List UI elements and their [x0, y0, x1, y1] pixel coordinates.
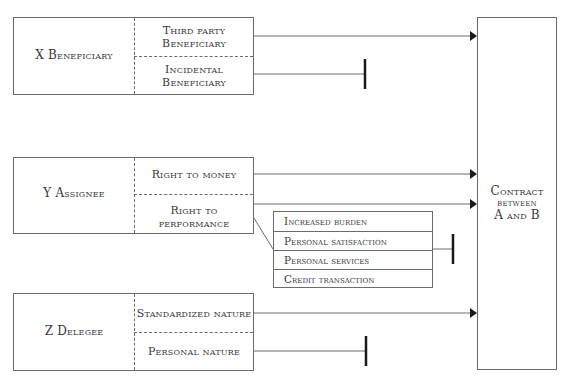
group-title: X Beneficiary	[14, 49, 134, 62]
arrowhead-icon	[470, 169, 477, 179]
group-z-delegee: Z Delegee Standardized nature Personal n…	[13, 293, 254, 371]
item-label-line1: Third party	[135, 24, 253, 37]
exception-link-line	[254, 218, 273, 249]
item-label-line2: Beneficiary	[135, 76, 253, 89]
exceptions-box: Increased burden Personal satisfaction P…	[273, 211, 433, 288]
exception-increased-burden: Increased burden	[274, 212, 432, 231]
group-title: Y Assignee	[14, 187, 134, 200]
exception-personal-services: Personal services	[274, 250, 432, 269]
item-standardized-nature: Standardized nature	[135, 307, 253, 320]
item-right-to-performance: Right to performance	[135, 204, 253, 230]
divider	[134, 194, 253, 195]
item-label-line2: Beneficiary	[135, 37, 253, 50]
contract-box: Contract between A and B	[477, 17, 557, 370]
divider	[134, 332, 253, 333]
item-right-to-money: Right to money	[135, 168, 253, 181]
exception-credit-transaction: Credit transaction	[274, 269, 432, 288]
item-label-line1: Incidental	[135, 63, 253, 76]
arrowhead-icon	[470, 308, 477, 318]
contract-label-line1: Contract	[478, 185, 556, 197]
arrowhead-icon	[470, 199, 477, 209]
contract-label: Contract between A and B	[478, 185, 556, 221]
item-third-party-beneficiary: Third party Beneficiary	[135, 24, 253, 50]
contract-label-line3: A and B	[478, 209, 556, 221]
arrowhead-icon	[470, 31, 477, 41]
exception-personal-satisfaction: Personal satisfaction	[274, 231, 432, 250]
group-x-beneficiary: X Beneficiary Third party Beneficiary In…	[13, 17, 254, 95]
group-y-assignee: Y Assignee Right to money Right to perfo…	[13, 157, 254, 234]
item-personal-nature: Personal nature	[135, 345, 253, 358]
group-title: Z Delegee	[14, 325, 134, 338]
divider	[134, 56, 253, 57]
item-incidental-beneficiary: Incidental Beneficiary	[135, 63, 253, 89]
